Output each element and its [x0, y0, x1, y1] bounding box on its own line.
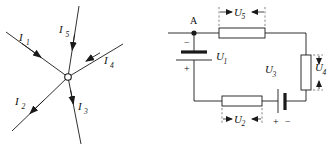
battery-u1-plus-sign: + [184, 63, 190, 74]
voltage-u1-subscript: 1 [224, 57, 228, 66]
resistor-u2 [222, 96, 262, 106]
current-i5-branch: I 5 [58, 6, 79, 77]
resistor-u5 [219, 28, 265, 38]
figure-svg: I 1 I 5 I 4 I 2 [0, 0, 330, 153]
current-i5-label: I [58, 23, 64, 35]
current-i4-arrow [86, 53, 100, 61]
current-i3-label: I [77, 100, 83, 112]
battery-u3-plus-sign: + [273, 116, 279, 127]
node-a-label: A [190, 15, 198, 26]
current-i1-label: I [18, 31, 24, 43]
figure-canvas: I 1 I 5 I 4 I 2 [0, 0, 330, 153]
current-i1-arrow [22, 44, 41, 58]
voltage-u5-subscript: 5 [242, 12, 246, 21]
junction-node [65, 74, 72, 81]
resistor-u4 [301, 55, 311, 90]
node-a-dot [191, 30, 196, 35]
current-i2-branch: I 2 [12, 77, 68, 131]
current-i4-label: I [103, 54, 109, 66]
voltage-u3-subscript: 3 [272, 70, 277, 79]
current-i2-subscript: 2 [22, 102, 26, 111]
voltage-u2-subscript: 2 [242, 119, 246, 128]
current-i3-branch: I 3 [68, 77, 88, 144]
battery-u1-minus-sign: − [184, 37, 190, 48]
current-i3-subscript: 3 [83, 107, 88, 116]
left-panel-group: I 1 I 5 I 4 I 2 [6, 6, 123, 144]
current-i2-arrow [30, 100, 44, 114]
current-i2-label: I [14, 95, 20, 107]
current-i4-subscript: 4 [110, 61, 114, 70]
right-panel-group: A − + U 1 U 3 + − [168, 6, 327, 129]
battery-u3-minus-sign: − [285, 116, 291, 127]
current-i3-arrow [71, 90, 74, 104]
current-i1-branch: I 1 [6, 31, 68, 77]
voltage-u4-subscript: 4 [323, 68, 327, 77]
current-i4-line [68, 44, 123, 77]
current-i4-branch: I 4 [68, 44, 123, 77]
current-i1-subscript: 1 [26, 38, 30, 47]
current-i5-subscript: 5 [66, 30, 70, 39]
current-i5-arrow [72, 34, 74, 50]
